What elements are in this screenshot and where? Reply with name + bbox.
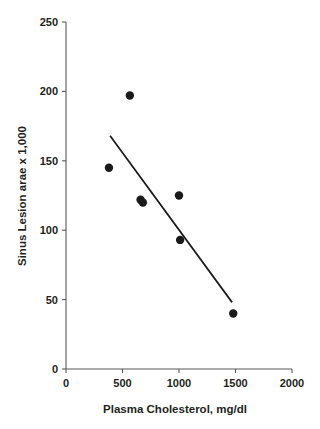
data-point [139, 198, 147, 206]
regression-line [110, 136, 232, 303]
x-tick-label: 1000 [167, 377, 191, 389]
y-tick-label: 250 [40, 16, 58, 28]
y-tick-label: 150 [40, 155, 58, 167]
y-tick-label: 50 [46, 294, 58, 306]
y-tick-label: 0 [52, 363, 58, 375]
x-tick-label: 2000 [280, 377, 304, 389]
y-tick-label: 100 [40, 224, 58, 236]
data-point [176, 236, 184, 244]
chart-canvas: 0501001502002500500100015002000 Plasma C… [0, 0, 320, 429]
x-tick-label: 1500 [223, 377, 247, 389]
scatter-plot-figure: 0501001502002500500100015002000 Plasma C… [0, 0, 320, 429]
data-point [105, 164, 113, 172]
x-tick-label: 500 [113, 377, 131, 389]
x-tick-label: 0 [63, 377, 69, 389]
data-point [175, 191, 183, 199]
trend-line [110, 136, 232, 303]
tick-labels: 0501001502002500500100015002000 [40, 16, 305, 389]
data-point [126, 91, 134, 99]
y-tick-label: 200 [40, 85, 58, 97]
y-axis-title: Sinus Lesion arae x 1,000 [16, 126, 28, 266]
data-point [229, 309, 237, 317]
x-axis-title: Plasma Cholesterol, mg/dl [103, 403, 247, 415]
